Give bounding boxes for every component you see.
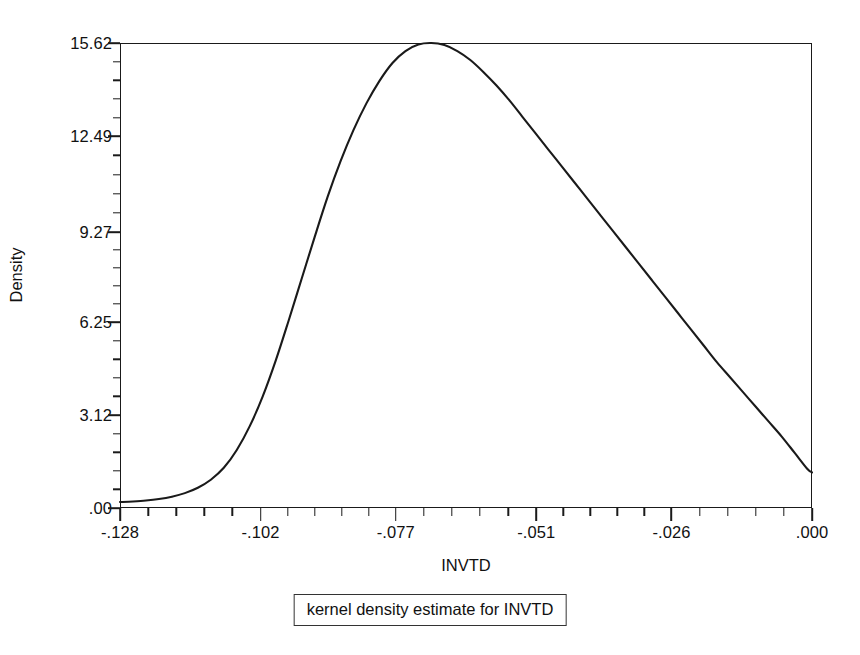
y-minor-tick	[113, 285, 120, 286]
y-minor-tick	[113, 61, 120, 62]
y-minor-tick	[113, 80, 120, 81]
x-minor-tick	[783, 508, 784, 516]
x-minor-tick	[341, 508, 342, 516]
y-minor-tick	[113, 470, 120, 471]
x-minor-tick	[147, 508, 148, 516]
y-minor-tick	[113, 174, 120, 175]
x-minor-tick	[232, 508, 233, 516]
y-major-tick	[108, 135, 120, 137]
x-minor-tick	[563, 508, 564, 516]
y-tick-label: 3.12	[0, 407, 112, 424]
x-tick-label: -.051	[517, 524, 555, 541]
y-minor-tick	[113, 193, 120, 194]
x-tick-label: -.026	[652, 524, 690, 541]
y-tick-label: 9.27	[0, 224, 112, 241]
x-minor-tick	[699, 508, 700, 516]
y-major-tick	[108, 321, 120, 323]
x-tick-label: .000	[796, 524, 829, 541]
x-tick-label: -.102	[242, 524, 280, 541]
y-minor-tick	[113, 98, 120, 99]
x-minor-tick	[479, 508, 480, 516]
y-minor-tick	[113, 155, 120, 156]
chart-caption: kernel density estimate for INVTD	[294, 594, 567, 626]
y-major-tick	[108, 231, 120, 233]
kernel-density-figure: 15.6212.499.276.253.12.00 .000-.026-.051…	[0, 0, 860, 655]
x-axis-title: INVTD	[441, 556, 491, 575]
x-tick-label: -.128	[101, 524, 139, 541]
y-tick-label: 12.49	[0, 128, 112, 145]
y-major-tick	[108, 507, 120, 509]
y-minor-tick	[113, 117, 120, 118]
x-major-tick	[811, 508, 813, 521]
y-major-tick	[108, 414, 120, 416]
x-minor-tick	[368, 508, 369, 516]
y-axis-title: Density	[7, 247, 26, 302]
y-minor-tick	[113, 396, 120, 397]
y-minor-tick	[113, 249, 120, 250]
x-minor-tick	[423, 508, 424, 516]
y-minor-tick	[113, 267, 120, 268]
x-minor-tick	[617, 508, 618, 516]
y-minor-tick	[113, 377, 120, 378]
y-tick-label: 6.25	[0, 314, 112, 331]
x-major-tick	[260, 508, 262, 521]
x-major-tick	[671, 508, 673, 521]
density-curve-path	[120, 43, 812, 502]
y-minor-tick	[113, 212, 120, 213]
x-minor-tick	[287, 508, 288, 516]
y-tick-label: .00	[0, 500, 112, 517]
x-minor-tick	[644, 508, 645, 516]
x-minor-tick	[204, 508, 205, 516]
y-axis: 15.6212.499.276.253.12.00	[0, 0, 112, 655]
y-minor-tick	[113, 433, 120, 434]
y-minor-tick	[113, 359, 120, 360]
x-minor-tick	[314, 508, 315, 516]
density-curve-svg	[120, 43, 812, 508]
x-minor-tick	[176, 508, 177, 516]
y-tick-label: 15.62	[0, 35, 112, 52]
x-major-tick	[535, 508, 537, 521]
y-minor-tick	[113, 452, 120, 453]
x-minor-tick	[590, 508, 591, 516]
y-major-tick	[108, 42, 120, 44]
x-minor-tick	[507, 508, 508, 516]
y-minor-tick	[113, 303, 120, 304]
y-minor-tick	[113, 489, 120, 490]
y-minor-tick	[113, 340, 120, 341]
x-minor-tick	[755, 508, 756, 516]
x-tick-label: -.077	[377, 524, 415, 541]
x-minor-tick	[727, 508, 728, 516]
x-major-tick	[119, 508, 121, 521]
x-major-tick	[395, 508, 397, 521]
x-minor-tick	[451, 508, 452, 516]
